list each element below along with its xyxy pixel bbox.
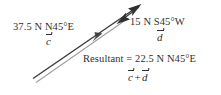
- vector-d-symbol: d: [157, 30, 163, 43]
- vector-d-force-label: 15 N S45°W: [130, 17, 185, 28]
- vector-c-force-label: 37.5 N N45°E: [13, 22, 74, 33]
- sum-second-vector-symbol: d: [142, 70, 148, 83]
- vector-addition-figure: 37.5 N N45°E c 15 N S45°W d Resultant = …: [0, 0, 221, 95]
- vector-d-symbol-label: d: [157, 30, 163, 43]
- resultant-label: Resultant = 22.5 N N45°E: [83, 54, 196, 65]
- vector-diagram-canvas: [0, 0, 221, 95]
- resultant-sum-label: c+d: [128, 70, 148, 83]
- plus-sign: +: [133, 71, 142, 83]
- vector-c-symbol: c: [46, 34, 51, 47]
- vector-c-symbol-label: c: [46, 34, 51, 47]
- sum-first-vector-symbol: c: [128, 70, 133, 83]
